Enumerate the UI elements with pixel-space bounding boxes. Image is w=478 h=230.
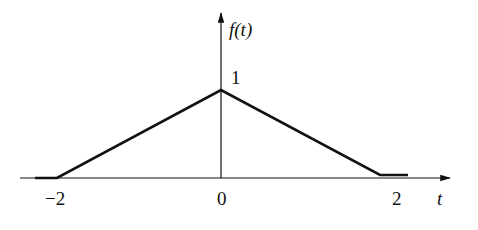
- chart-canvas: f(t) 1 −2 0 2 t: [0, 0, 478, 230]
- tick-label-0: 0: [217, 188, 227, 209]
- tick-label-neg2: −2: [45, 188, 65, 209]
- peak-label: 1: [231, 67, 241, 88]
- x-axis-label: t: [437, 188, 443, 209]
- tick-label-2: 2: [392, 188, 402, 209]
- y-axis-label: f(t): [229, 19, 252, 41]
